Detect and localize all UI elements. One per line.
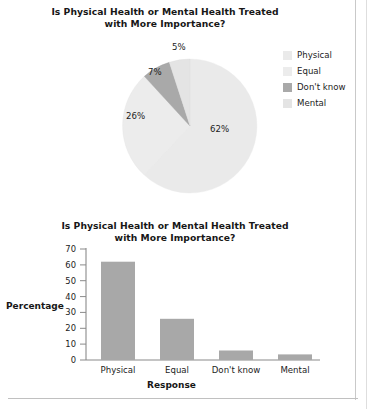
pie-slice-value-physical: 62% [210,124,229,134]
legend-label-dont-know: Don't know [297,82,346,92]
pie-slice-value-equal: 26% [126,111,145,121]
bar-physical [101,262,135,360]
x-tick-label-equal: Equal [165,365,189,375]
bar-dont-know [219,351,253,361]
pie-slice-value-dont-know: 7% [148,67,162,77]
y-tick-label-20: 20 [65,323,76,333]
legend-item-equal: Equal [283,63,357,79]
figure-root: Is Physical Health or Mental Health Trea… [0,0,368,409]
pie-chart-legend: Physical Equal Don't know Mental [283,47,357,111]
bar-mental [278,354,312,360]
legend-swatch-dont-know [283,83,292,92]
x-tick-label-dont-know: Don't know [212,365,261,375]
y-tick-label-60: 60 [65,260,76,270]
pie-chart-panel: Is Physical Health or Mental Health Trea… [0,0,355,208]
y-tick-label-40: 40 [65,292,76,302]
legend-label-mental: Mental [297,98,326,108]
legend-label-equal: Equal [297,66,321,76]
pie-chart-graphic [113,49,267,203]
x-tick-label-mental: Mental [280,365,309,375]
bar-chart-y-tick-labels: 70 60 50 40 30 20 10 0 [65,244,76,365]
page-frame-bottom-rule [8,398,358,399]
page-frame-right-rule [355,0,356,400]
pie-chart-title-line1: Is Physical Health or Mental Health Trea… [51,6,278,17]
legend-item-dont-know: Don't know [283,79,357,95]
legend-swatch-equal [283,67,292,76]
pie-slice-value-mental: 5% [172,42,186,52]
y-tick-label-50: 50 [65,276,76,286]
pie-chart-title: Is Physical Health or Mental Health Trea… [30,6,300,30]
legend-item-physical: Physical [283,47,357,63]
y-tick-label-10: 10 [65,339,76,349]
x-tick-label-physical: Physical [101,365,136,375]
pie-chart-title-line2: with More Importance? [105,18,226,29]
y-tick-label-0: 0 [71,355,76,365]
bar-equal [160,319,194,360]
bar-chart-x-tick-labels: Physical Equal Don't know Mental [101,365,310,375]
legend-swatch-mental [283,99,292,108]
bar-chart-panel: Is Physical Health or Mental Health Trea… [0,208,355,400]
page-frame-outer-rule [366,0,367,409]
bar-chart-y-ticks [80,249,86,360]
legend-swatch-physical [283,51,292,60]
legend-item-mental: Mental [283,95,357,111]
y-tick-label-30: 30 [65,307,76,317]
legend-label-physical: Physical [297,50,332,60]
y-tick-label-70: 70 [65,244,76,254]
bar-chart-graphic: 70 60 50 40 30 20 10 0 Physical Equal Do… [0,208,355,400]
